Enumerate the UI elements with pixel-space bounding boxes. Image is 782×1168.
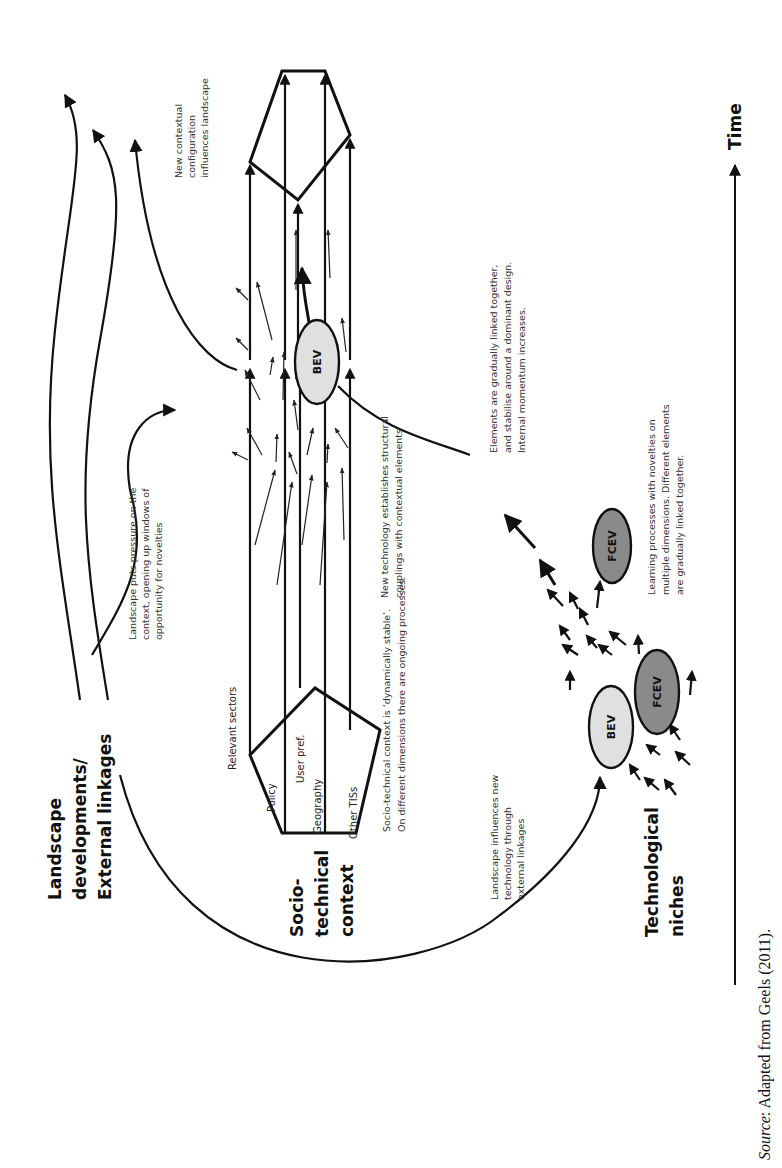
- source-caption: Source: Adapted from Geels (2011).: [756, 929, 774, 1160]
- dim-other-tiss: Other TISs: [348, 787, 359, 839]
- source-caption-text: : Adapted from Geels (2011).: [756, 929, 774, 1116]
- annotation-new-technology: New technology establishes structural co…: [379, 416, 404, 598]
- svg-text:New technology establishes str: New technology establishes structural: [379, 416, 390, 598]
- niche-to-regime-curve: [338, 386, 470, 455]
- svg-text:Learning processes with novelt: Learning processes with novelties on: [646, 419, 657, 595]
- annotation-landscape-pressure: Landscape puts pressure on the context, …: [127, 488, 164, 640]
- svg-text:On different dimensions there: On different dimensions there are ongoin…: [396, 577, 407, 832]
- dim-relevant-sectors: Relevant sectors: [227, 687, 238, 770]
- svg-text:couplings with contextual elem: couplings with contextual elements: [393, 429, 404, 598]
- svg-text:opportunity for novelties: opportunity for novelties: [153, 522, 164, 640]
- landscape-to-niche-arrow: [120, 775, 600, 961]
- dim-user-pref: User pref.: [295, 735, 306, 783]
- svg-text:context: context: [337, 864, 357, 937]
- annotation-new-config: New contextual configuration influences …: [173, 78, 210, 178]
- svg-text:external linkages: external linkages: [515, 819, 526, 900]
- svg-text:External linkages: External linkages: [95, 734, 115, 900]
- svg-text:technology through: technology through: [502, 807, 513, 900]
- svg-text:Landscape: Landscape: [45, 798, 65, 900]
- mlp-diagram: BEV BEV FCEV FCEV Time: [0, 0, 782, 1168]
- svg-text:are gradually linked together.: are gradually linked together.: [674, 455, 685, 595]
- niche-heading: Technological niches: [642, 807, 687, 937]
- annotation-learning: Learning processes with novelties on mul…: [646, 404, 685, 595]
- dim-geography: Geography: [312, 779, 323, 834]
- regime-prism: [250, 71, 380, 833]
- landscape-curves: [50, 95, 116, 700]
- svg-text:niches: niches: [667, 875, 687, 937]
- svg-text:Technological: Technological: [642, 807, 662, 937]
- svg-text:and stabilise around a dominan: and stabilise around a dominant design.: [502, 262, 513, 453]
- dim-policy: Policy: [266, 783, 277, 812]
- annotation-elements-linked: Elements are gradually linked together, …: [488, 262, 527, 453]
- bev-niche-label: BEV: [605, 714, 618, 739]
- svg-text:Landscape puts pressure on the: Landscape puts pressure on the: [127, 488, 138, 640]
- fcev-niche-label: FCEV: [651, 676, 664, 708]
- fcev-later-label: FCEV: [606, 530, 619, 562]
- svg-text:Socio-: Socio-: [287, 878, 307, 937]
- landscape-heading: Landscape developments/ External linkage…: [45, 734, 115, 900]
- svg-text:Landscape influences new: Landscape influences new: [489, 775, 500, 900]
- regime-heading: Socio- technical context: [287, 850, 357, 937]
- svg-text:Socio-technical context is ‘dy: Socio-technical context is ‘dynamically …: [381, 609, 392, 832]
- svg-text:influences landscape: influences landscape: [199, 78, 210, 178]
- svg-text:Internal momentum increases.: Internal momentum increases.: [516, 307, 527, 453]
- svg-text:multiple dimensions. Different: multiple dimensions. Different elements: [660, 404, 671, 595]
- annotation-landscape-influences: Landscape influences new technology thro…: [489, 775, 526, 900]
- svg-text:technical: technical: [312, 850, 332, 937]
- niche-trajectory-arrows: [505, 515, 555, 585]
- bev-regime-label: BEV: [311, 349, 324, 374]
- svg-text:developments/: developments/: [70, 757, 90, 900]
- annotation-dynamically-stable: Socio-technical context is ‘dynamically …: [381, 577, 407, 832]
- svg-text:context, opening up windows of: context, opening up windows of: [140, 488, 151, 640]
- svg-text:New contextual: New contextual: [173, 104, 184, 178]
- bev-breakthrough-arrow: [302, 268, 309, 322]
- svg-text:Elements are gradually linked: Elements are gradually linked together,: [488, 264, 499, 453]
- svg-text:configuration: configuration: [186, 115, 197, 178]
- source-caption-label: Source: [756, 1116, 773, 1160]
- time-axis-label: Time: [725, 103, 745, 150]
